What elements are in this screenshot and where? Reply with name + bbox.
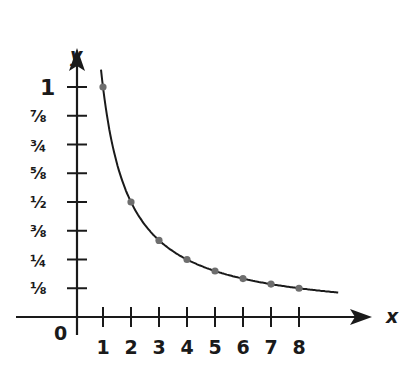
y-tick-label: ½: [30, 193, 47, 212]
y-tick-label: ¾: [30, 136, 47, 155]
x-tick-label: 2: [124, 336, 137, 358]
curve-line: [101, 70, 338, 293]
y-axis-ticks: ⅛¼⅜½⅝¾⅞1: [30, 75, 87, 298]
y-tick-label: ⅝: [30, 164, 47, 183]
x-tick-label: 6: [236, 336, 249, 358]
y-tick-label: ⅛: [30, 279, 47, 298]
data-point: [295, 285, 302, 292]
x-tick-label: 1: [96, 336, 109, 358]
hyperbola-chart: ⅛¼⅜½⅝¾⅞1 12345678 y x 0: [0, 0, 415, 369]
x-tick-label: 8: [292, 336, 305, 358]
x-axis-ticks: 12345678: [96, 307, 305, 358]
data-point: [211, 267, 218, 274]
axes: [16, 48, 372, 335]
x-tick-label: 5: [208, 336, 221, 358]
data-point: [239, 275, 246, 282]
y-axis-label: y: [70, 44, 84, 66]
data-point: [99, 83, 106, 90]
y-tick-label: ⅞: [30, 107, 47, 126]
data-points: [99, 83, 302, 291]
y-tick-label: ⅜: [30, 222, 47, 241]
x-tick-label: 3: [152, 336, 165, 358]
y-tick-label: 1: [40, 75, 55, 100]
data-point: [267, 281, 274, 288]
origin-label: 0: [54, 322, 67, 344]
data-point: [127, 198, 134, 205]
x-axis-label: x: [385, 305, 399, 327]
y-tick-label: ¼: [30, 251, 47, 270]
x-tick-label: 7: [264, 336, 277, 358]
x-tick-label: 4: [180, 336, 193, 358]
data-point: [183, 256, 190, 263]
data-point: [155, 237, 162, 244]
